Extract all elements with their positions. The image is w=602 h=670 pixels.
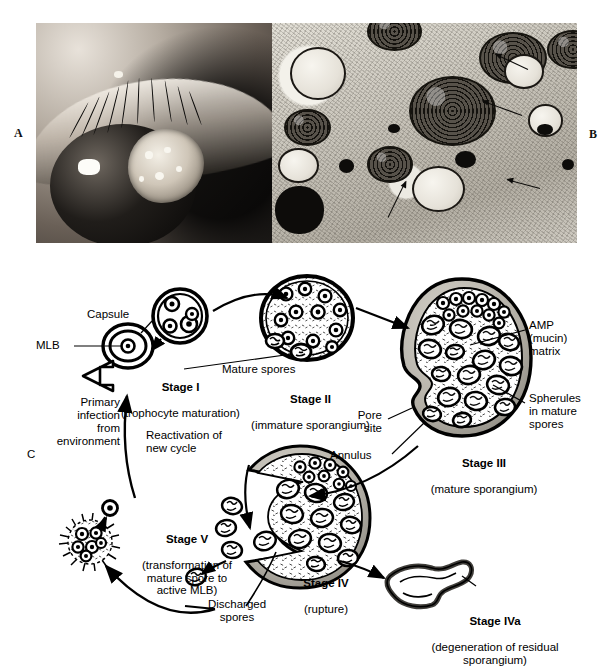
- stage-5-label: Stage V (transformation of mature spore …: [122, 520, 252, 610]
- stage-4-title: Stage IV: [278, 577, 374, 590]
- panel-letter-a: A: [14, 126, 23, 141]
- stage-1-title: Stage I: [108, 381, 253, 394]
- stage-1-maturing-trophocyte: [153, 289, 207, 343]
- stage-5-transformation: [59, 501, 120, 572]
- stage-5-caption: (transformation of mature spore to activ…: [122, 559, 252, 598]
- em-dense-body: [388, 124, 400, 133]
- panel-letter-c: C: [27, 448, 35, 461]
- stage-4a-title: Stage IVa: [400, 615, 590, 628]
- stage-5-title: Stage V: [122, 533, 252, 546]
- em-dense-body: [275, 186, 324, 234]
- stage-4-caption: (rupture): [278, 603, 374, 616]
- stage-3-label: Stage III (mature sporangium): [404, 444, 564, 508]
- stage-2-title: Stage II: [238, 393, 383, 406]
- em-dense-body: [339, 159, 354, 172]
- em-sporangium-large: [409, 76, 495, 146]
- leader-pore-site: [388, 408, 412, 419]
- corneal-light-reflex: [78, 159, 99, 174]
- lesion-spore-dot: [164, 147, 171, 154]
- stage-3-mature-sporangium: [402, 279, 531, 436]
- lesion-spore-dot: [145, 151, 153, 158]
- em-vacuole: [278, 148, 319, 183]
- label-reactivation: Reactivation of new cycle: [146, 429, 222, 455]
- stage-3-title: Stage III: [404, 457, 564, 470]
- label-mature-spores: Mature spores: [222, 363, 296, 376]
- em-sporangium-small: [284, 109, 331, 146]
- lesion-spore-dot: [139, 176, 144, 181]
- em-sporangium-immature: [367, 146, 414, 183]
- em-vacuole: [290, 47, 346, 99]
- label-spherules: Spherules in mature spores: [529, 392, 581, 431]
- panel-letter-b: B: [589, 127, 597, 142]
- electron-micrograph: [272, 23, 577, 243]
- stage-1-label: Stage I (trophocyte maturation): [108, 368, 253, 432]
- stage-4a-residual-sporangium: [387, 562, 471, 607]
- em-vacuole: [504, 54, 545, 89]
- clinical-eye-photograph: [36, 23, 272, 243]
- label-discharged-spores: Discharged spores: [192, 598, 282, 624]
- stage-2-immature-sporangium: [261, 276, 353, 360]
- label-mlb: MLB: [36, 339, 60, 352]
- arrow-stage2-to-stage3: [356, 308, 408, 328]
- stage-4a-label: Stage IVa (degeneration of residual spor…: [400, 602, 590, 670]
- lesion-spore-dot: [176, 166, 182, 172]
- em-dense-body: [537, 124, 552, 135]
- label-pore-site: Pore site: [330, 409, 382, 435]
- label-primary-infection: Primary infection from environment: [10, 396, 120, 448]
- stage-1-caption: (trophocyte maturation): [108, 407, 253, 420]
- arrow-spore-discharge: [245, 465, 250, 528]
- label-capsule: Capsule: [87, 308, 129, 321]
- label-annulus: Annulus: [330, 449, 372, 462]
- lesion-spore-dot: [155, 172, 164, 180]
- stage-4a-caption: (degeneration of residual sporangium): [400, 641, 590, 667]
- label-amp-matrix: AMP (mucin) matrix: [529, 319, 567, 358]
- stage-4-label: Stage IV (rupture): [278, 564, 374, 628]
- life-cycle-diagram: C Capsule MLB Stage I (trophocyte matura…: [0, 246, 602, 652]
- stage-3-caption: (mature sporangium): [404, 483, 564, 496]
- em-vacuole: [412, 166, 465, 212]
